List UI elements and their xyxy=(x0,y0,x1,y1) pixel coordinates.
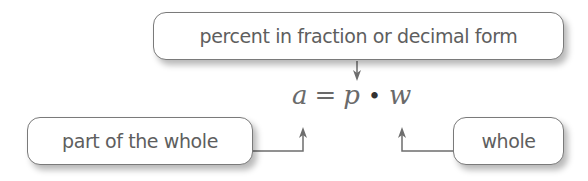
whole-label: whole xyxy=(481,130,535,152)
arrow-part-to-a xyxy=(253,127,307,151)
percent-label-box: percent in fraction or decimal form xyxy=(153,12,564,60)
equation-p: p xyxy=(343,80,360,110)
equation-w: w xyxy=(389,80,411,110)
part-label: part of the whole xyxy=(62,130,218,152)
whole-label-box: whole xyxy=(453,117,564,165)
arrow-percent-to-p xyxy=(353,61,361,81)
equation-a: a xyxy=(292,80,308,110)
percent-equation: a=p•w xyxy=(292,80,411,110)
equation-times: • xyxy=(368,84,381,109)
part-label-box: part of the whole xyxy=(27,117,253,165)
percent-label: percent in fraction or decimal form xyxy=(200,25,518,47)
arrow-whole-to-w xyxy=(398,127,453,151)
equation-equals: = xyxy=(315,80,337,110)
